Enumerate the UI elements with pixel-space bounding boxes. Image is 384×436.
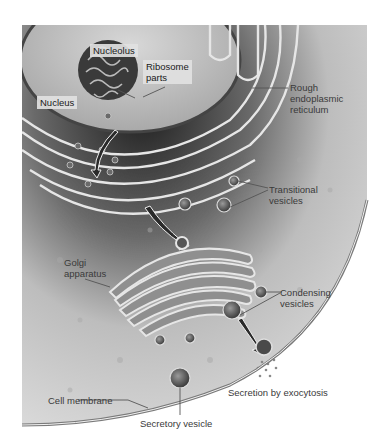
cell-secretion-illustration — [0, 0, 384, 436]
secretory-vesicle-shape — [170, 368, 190, 388]
label-condensing-vesicles: Condensing vesicles — [280, 287, 331, 309]
label-secretion-by-exocytosis: Secretion by exocytosis — [228, 387, 328, 398]
label-nucleolus: Nucleolus — [90, 44, 138, 57]
label-rough-er: Rough endoplasmic reticulum — [290, 82, 343, 115]
label-transitional-vesicles: Transitional vesicles — [269, 184, 318, 206]
label-golgi-apparatus: Golgi apparatus — [64, 257, 106, 279]
label-secretory-vesicle: Secretory vesicle — [140, 418, 212, 429]
label-cell-membrane: Cell membrane — [48, 395, 112, 406]
label-ribosome-parts: Ribosome parts — [143, 60, 192, 84]
label-nucleus: Nucleus — [37, 96, 77, 109]
